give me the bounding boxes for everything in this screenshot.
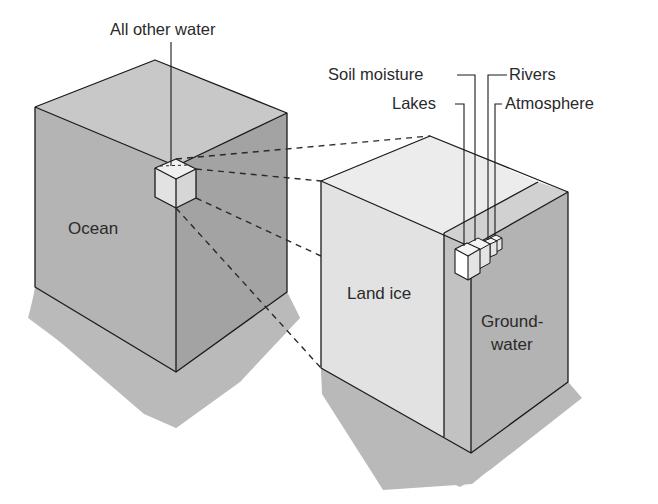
ocean-block: Ocean xyxy=(28,60,300,428)
ocean-label: Ocean xyxy=(68,219,118,238)
all-other-water-label: All other water xyxy=(110,20,216,38)
soil-moisture-label: Soil moisture xyxy=(328,65,423,83)
all-other-water-cube xyxy=(155,159,196,208)
land-ice-label: Land ice xyxy=(347,284,411,303)
groundwater-label-line1: Ground- xyxy=(481,312,543,331)
land-block: Land ice Ground- water xyxy=(321,136,582,490)
water-reservoirs-diagram: Ocean All other water xyxy=(0,0,658,504)
lakes-label: Lakes xyxy=(392,94,436,112)
lakes-cube xyxy=(455,243,480,280)
groundwater-label-line2: water xyxy=(490,335,533,354)
rivers-label: Rivers xyxy=(509,65,556,83)
atmosphere-label: Atmosphere xyxy=(505,94,594,112)
